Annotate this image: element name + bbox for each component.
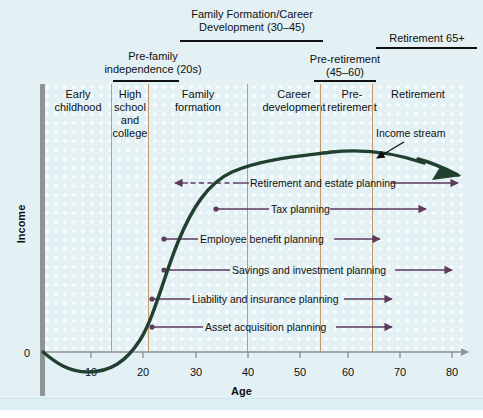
planning-start-dot-5 xyxy=(149,324,154,329)
figure-vector-layer xyxy=(0,0,483,418)
x-axis-line xyxy=(40,352,468,358)
planning-label-2: Employee benefit planning xyxy=(200,233,324,245)
bottom-margin xyxy=(0,410,483,418)
planning-label-1: Tax planning xyxy=(271,203,330,215)
planning-start-dot-4 xyxy=(149,296,154,301)
planning-start-dot-1 xyxy=(213,206,218,211)
planning-start-dot-2 xyxy=(161,236,166,241)
income-stream-label: Income stream xyxy=(376,127,445,139)
planning-label-0: Retirement and estate planning xyxy=(250,177,396,189)
planning-label-5: Asset acquisition planning xyxy=(205,321,326,333)
financial-life-cycle-figure: Family Formation/Career Development (30–… xyxy=(0,0,483,418)
planning-label-4: Liability and insurance planning xyxy=(192,293,339,305)
planning-label-3: Savings and investment planning xyxy=(232,264,386,276)
